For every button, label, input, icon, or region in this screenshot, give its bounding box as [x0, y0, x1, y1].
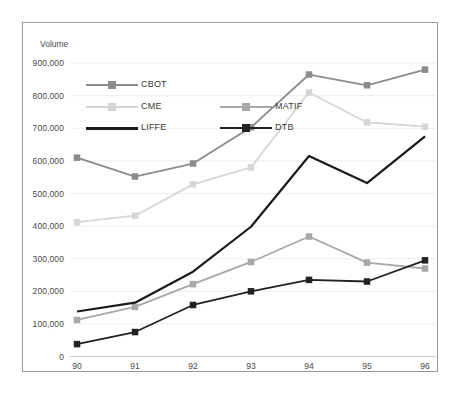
- x-axis-tick-label: 91: [120, 361, 150, 371]
- x-axis-tick-label: 96: [410, 361, 440, 371]
- legend-marker-icon: [242, 103, 250, 111]
- y-axis-tick-label: 200,000: [16, 286, 64, 296]
- legend-item-liffe[interactable]: LIFFE: [86, 121, 167, 133]
- legend-swatch-icon: [220, 101, 272, 112]
- y-axis-tick-label: 400,000: [16, 221, 64, 231]
- y-axis-tick-label: 100,000: [16, 319, 64, 329]
- legend-swatch-icon: [86, 122, 138, 133]
- y-axis-title: Volume: [40, 39, 68, 49]
- legend-item-dtb[interactable]: DTB: [220, 121, 294, 133]
- x-axis-tick-label: 90: [62, 361, 92, 371]
- legend-swatch-icon: [86, 101, 138, 112]
- legend-swatch-icon: [220, 122, 272, 133]
- y-axis-tick-label: 600,000: [16, 156, 64, 166]
- x-axis-tick-label: 92: [178, 361, 208, 371]
- y-axis-tick-label: 900,000: [16, 58, 64, 68]
- legend-label: LIFFE: [141, 122, 167, 132]
- legend-marker-icon: [108, 103, 116, 111]
- legend-item-cbot[interactable]: CBOT: [86, 78, 167, 90]
- x-axis-tick-label: 93: [236, 361, 266, 371]
- x-axis-tick-label: 95: [352, 361, 382, 371]
- legend-item-cme[interactable]: CME: [86, 100, 162, 112]
- legend-marker-icon: [242, 124, 250, 132]
- chart-plot-area: [22, 22, 438, 372]
- legend-swatch-icon: [86, 79, 138, 90]
- legend-label: CBOT: [141, 79, 167, 89]
- y-axis-tick-label: 500,000: [16, 189, 64, 199]
- x-axis-tick-label: 94: [294, 361, 324, 371]
- y-axis-tick-label: 300,000: [16, 254, 64, 264]
- y-axis-tick-label: 700,000: [16, 123, 64, 133]
- y-axis-tick-label: 0: [16, 352, 64, 362]
- legend-label: MATIF: [275, 101, 302, 111]
- y-axis-tick-label: 800,000: [16, 91, 64, 101]
- legend-label: DTB: [275, 122, 294, 132]
- legend-item-matif[interactable]: MATIF: [220, 100, 302, 112]
- legend-label: CME: [141, 101, 162, 111]
- legend-marker-icon: [108, 81, 116, 89]
